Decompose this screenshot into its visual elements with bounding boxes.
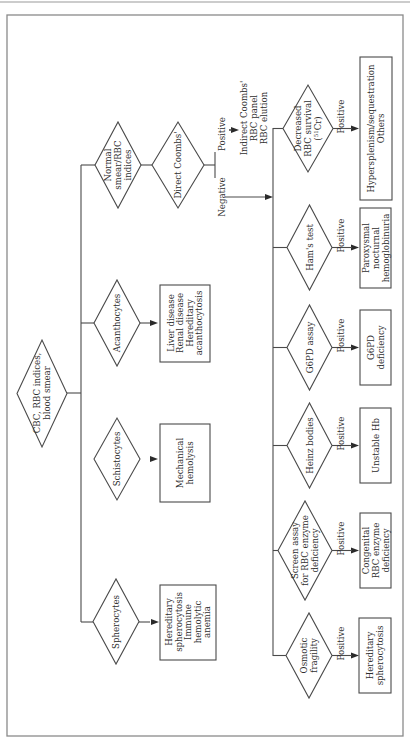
- result-hams-text-line: hemoglobinuria: [381, 214, 391, 283]
- arrow-osmotic: [351, 653, 359, 659]
- result-acanthocytes-text-line: Renal disease: [175, 293, 185, 353]
- coombs-positive-label-line: Positive: [217, 117, 227, 151]
- edge-label-hams-line: Positive: [336, 219, 346, 253]
- start-text-line: CBC, RBC indices,: [32, 353, 42, 434]
- hemolytic-anemia-flowchart: CBC, RBC indices,blood smearNormalsmear/…: [0, 0, 410, 745]
- edge-label-screen-line: Positive: [336, 522, 346, 556]
- result-screen-text-line: deficiency: [381, 528, 391, 572]
- arrow-spherocytes: [151, 619, 159, 625]
- result-osmotic-text-line: Hereditary: [365, 632, 375, 680]
- result-decreased-survival-text-line: Others: [376, 114, 386, 144]
- result-g6pd-text-line: deficiency: [376, 325, 386, 369]
- result-osmotic-text: Hereditaryspherocytosis: [365, 626, 385, 686]
- decision-normal-smear-text-line: smear/RBC: [113, 140, 123, 190]
- decision-g6pd-text-line: G6PD assay: [305, 322, 315, 374]
- arrow-schistocytes: [150, 456, 158, 462]
- result-screen-text-line: RBC enzyme: [371, 523, 381, 579]
- arrow-hams: [351, 245, 359, 251]
- result-screen-text-line: Congenital: [361, 527, 371, 575]
- arrow-heinz: [351, 443, 359, 449]
- decision-direct-coombs-text: Direct Coombs': [173, 131, 183, 198]
- coombs-negative-label-line: Negative: [217, 177, 227, 216]
- decision-hams-text-line: Ham's test: [305, 224, 315, 271]
- edge-label-g6pd: Positive: [336, 319, 346, 353]
- decision-schistocytes-text: Schistocytes: [112, 432, 122, 487]
- result-acanthocytes-text: Liver diseaseRenal diseaseHereditary aca…: [166, 291, 205, 356]
- coombs-positive-result: Indirect Coombs'RBC panelRBC elution: [239, 81, 269, 156]
- decision-normal-smear-text-line: Normal: [103, 148, 113, 181]
- result-schistocytes-text: Mechanicalhemolysis: [175, 438, 195, 489]
- result-heinz-text-line: Unstable Hb: [371, 418, 381, 473]
- decision-acanthocytes-text: Acanthocytes: [112, 294, 122, 353]
- decision-hams-text: Ham's test: [305, 224, 315, 271]
- result-schistocytes-text-line: hemolysis: [185, 441, 195, 484]
- arrow-acanthocytes: [150, 320, 158, 326]
- arrow-screen: [351, 548, 359, 554]
- result-hams-text-line: Paroxysmal: [361, 223, 371, 273]
- result-spherocytes-text-line: anemia: [202, 606, 212, 638]
- decision-spherocytes-text: Spherocytes: [111, 595, 121, 649]
- connectors: [67, 128, 273, 656]
- result-g6pd-text-line: G6PD: [366, 335, 376, 360]
- coombs-positive-result-line: RBC elution: [259, 91, 269, 144]
- edge-label-decreased-survival: Positive: [336, 100, 346, 134]
- shapes: [17, 57, 392, 698]
- decision-osmotic-text: Osmoticfragility: [299, 637, 319, 673]
- arrow-decreased-survival: [351, 126, 359, 132]
- result-osmotic-text-line: spherocytosis: [375, 626, 385, 686]
- decision-normal-smear-text-line: indices: [123, 150, 133, 181]
- decision-decreased-survival-text-line: RBC survival: [303, 100, 313, 157]
- edge-label-osmotic-line: Positive: [336, 627, 346, 661]
- decision-g6pd-text: G6PD assay: [305, 322, 315, 374]
- coombs-positive-label: Positive: [217, 117, 227, 151]
- result-heinz-text: Unstable Hb: [371, 418, 381, 473]
- decision-spherocytes-text-line: Spherocytes: [111, 595, 121, 649]
- edge-label-osmotic: Positive: [336, 627, 346, 661]
- decision-screen-text-line: Screen assay: [290, 522, 300, 579]
- edge-label-hams: Positive: [336, 219, 346, 253]
- edge-label-g6pd-line: Positive: [336, 319, 346, 353]
- result-decreased-survival-text-line: Hypersplenism/sequestration: [366, 64, 376, 193]
- edge-label-screen: Positive: [336, 522, 346, 556]
- start-text-line: blood smear: [42, 365, 52, 420]
- edge-label-heinz: Positive: [336, 417, 346, 451]
- result-spherocytes-text-line: hemolytic: [193, 601, 203, 644]
- decision-osmotic-text-line: Osmotic: [299, 637, 309, 673]
- decision-osmotic-text-line: fragility: [309, 638, 319, 673]
- edge-label-decreased-survival-line: Positive: [336, 100, 346, 134]
- coombs-positive-result-line: Indirect Coombs': [239, 81, 249, 156]
- result-acanthocytes-text-line: Hereditary: [185, 299, 195, 347]
- arrow-coombs-positive: [231, 127, 239, 133]
- coombs-negative-label: Negative: [217, 177, 227, 216]
- arrowheads: [150, 126, 359, 659]
- decision-screen-text-line: for RBC enzyme: [300, 515, 310, 586]
- result-spherocytes-text-line: Hereditary: [164, 598, 174, 646]
- decision-schistocytes-text-line: Schistocytes: [112, 432, 122, 487]
- result-hams-text-line: nocturnal: [371, 227, 381, 269]
- result-acanthocytes-text-line: Liver disease: [166, 294, 176, 352]
- edge-label-heinz-line: Positive: [336, 417, 346, 451]
- coombs-positive-result-line: RBC panel: [249, 95, 259, 141]
- arrow-coombs-negative: [265, 194, 273, 200]
- result-spherocytes-text-line: Immune: [183, 604, 193, 640]
- decision-direct-coombs-text-line: Direct Coombs': [173, 131, 183, 198]
- result-acanthocytes-text-line: acanthocytosis: [194, 291, 204, 356]
- result-spherocytes-text-line: spherocytosis: [174, 592, 184, 652]
- decision-screen-text-line: deficiency: [310, 528, 320, 572]
- decision-heinz-text-line: Heinz bodies: [305, 417, 315, 474]
- decision-heinz-text: Heinz bodies: [305, 417, 315, 474]
- decision-acanthocytes-text-line: Acanthocytes: [112, 294, 122, 353]
- result-screen-text: CongenitalRBC enzymedeficiency: [361, 523, 391, 579]
- result-schistocytes-text-line: Mechanical: [175, 438, 185, 489]
- arrow-g6pd: [351, 345, 359, 351]
- decision-decreased-survival-text-line: Decreased: [293, 105, 303, 152]
